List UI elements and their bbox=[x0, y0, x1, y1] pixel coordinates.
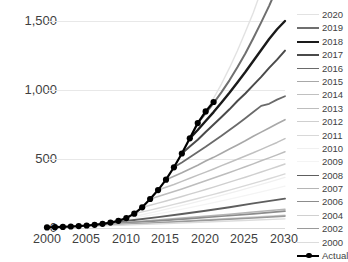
data-point-marker bbox=[155, 187, 161, 193]
series-line-2018 bbox=[190, 21, 285, 138]
x-tick-2000: 2000 bbox=[25, 232, 69, 246]
legend-label: 2018 bbox=[322, 35, 343, 48]
legend-swatch-icon bbox=[297, 94, 319, 95]
legend-item-2016[interactable]: 2016 bbox=[297, 62, 346, 75]
legend-label: 2015 bbox=[322, 75, 343, 88]
data-point-marker bbox=[107, 220, 113, 226]
legend-label: 2016 bbox=[322, 62, 343, 75]
legend-item-2015[interactable]: 2015 bbox=[297, 75, 346, 88]
legend-label: 2000 bbox=[322, 236, 343, 249]
legend-item-2017[interactable]: 2017 bbox=[297, 48, 346, 61]
legend-item-2006[interactable]: 2006 bbox=[297, 195, 346, 208]
legend-swatch-icon bbox=[297, 148, 319, 149]
data-point-marker bbox=[203, 108, 209, 114]
legend-item-2013[interactable]: 2013 bbox=[297, 102, 346, 115]
legend-swatch-icon bbox=[297, 201, 319, 202]
legend-swatch-icon bbox=[297, 27, 319, 29]
legend-label: 2013 bbox=[322, 102, 343, 115]
legend-swatch-icon bbox=[297, 81, 319, 82]
legend-label: 2014 bbox=[322, 88, 343, 101]
legend-item-2010[interactable]: 2010 bbox=[297, 142, 346, 155]
legend-item-2020[interactable]: 2020 bbox=[297, 8, 346, 21]
legend-item-2011[interactable]: 2011 bbox=[297, 129, 346, 142]
legend-item-2008[interactable]: 2008 bbox=[297, 169, 346, 182]
legend-label: 2004 bbox=[322, 209, 343, 222]
legend-item-2007[interactable]: 2007 bbox=[297, 182, 346, 195]
data-point-marker bbox=[163, 177, 169, 183]
legend-label: 2006 bbox=[322, 195, 343, 208]
data-point-marker bbox=[211, 99, 217, 105]
series-line-2013 bbox=[150, 152, 285, 199]
data-point-marker bbox=[68, 223, 74, 229]
legend-label: 2002 bbox=[322, 222, 343, 235]
legend-item-actual[interactable]: Actual bbox=[297, 249, 346, 262]
legend-swatch-icon bbox=[297, 161, 319, 162]
series-line-actual bbox=[47, 102, 214, 227]
legend-item-2018[interactable]: 2018 bbox=[297, 35, 346, 48]
legend-label: 2008 bbox=[322, 169, 343, 182]
data-point-marker bbox=[139, 204, 145, 210]
legend-swatch-icon bbox=[297, 14, 319, 15]
legend-label: 2009 bbox=[322, 155, 343, 168]
legend-item-2004[interactable]: 2004 bbox=[297, 209, 346, 222]
legend-swatch-icon bbox=[297, 68, 319, 69]
legend-swatch-icon bbox=[297, 108, 319, 109]
legend-swatch-icon bbox=[297, 41, 319, 43]
legend-label: 2019 bbox=[322, 21, 343, 34]
x-tick-2010: 2010 bbox=[104, 232, 148, 246]
chart-legend: 2020201920182017201620152014201320122011… bbox=[297, 8, 346, 262]
legend-item-2019[interactable]: 2019 bbox=[297, 21, 346, 34]
data-point-marker bbox=[76, 223, 82, 229]
data-point-marker bbox=[92, 222, 98, 228]
data-point-marker bbox=[84, 222, 90, 228]
legend-label: Actual bbox=[322, 249, 348, 262]
data-point-marker bbox=[123, 215, 129, 221]
data-point-marker bbox=[171, 164, 177, 170]
series-lines bbox=[47, 21, 285, 228]
data-point-marker bbox=[147, 196, 153, 202]
data-point-marker bbox=[60, 224, 66, 230]
legend-item-2014[interactable]: 2014 bbox=[297, 88, 346, 101]
axis-baseline bbox=[47, 228, 285, 229]
data-point-marker bbox=[44, 224, 50, 230]
legend-label: 2011 bbox=[322, 129, 342, 142]
data-point-marker bbox=[187, 135, 193, 141]
x-tick-2025: 2025 bbox=[222, 232, 266, 246]
series-line-2017 bbox=[182, 51, 285, 154]
series-line-2016 bbox=[174, 96, 285, 167]
x-tick-2005: 2005 bbox=[64, 232, 108, 246]
data-point-marker bbox=[179, 150, 185, 156]
legend-label: 2012 bbox=[322, 115, 343, 128]
plot-area bbox=[47, 21, 285, 228]
legend-label: 2017 bbox=[322, 48, 343, 61]
legend-label: 2020 bbox=[322, 8, 343, 21]
data-point-marker bbox=[115, 218, 121, 224]
data-point-marker bbox=[131, 211, 137, 217]
legend-swatch-icon bbox=[297, 135, 319, 136]
legend-swatch-icon bbox=[297, 121, 319, 122]
legend-item-2000[interactable]: 2000 bbox=[297, 236, 346, 249]
legend-marker-icon bbox=[306, 253, 312, 259]
x-tick-2020: 2020 bbox=[183, 232, 227, 246]
legend-item-2002[interactable]: 2002 bbox=[297, 222, 346, 235]
x-tick-2015: 2015 bbox=[143, 232, 187, 246]
legend-swatch-icon bbox=[297, 175, 319, 176]
data-point-marker bbox=[195, 120, 201, 126]
legend-swatch-icon bbox=[297, 54, 319, 56]
legend-item-2012[interactable]: 2012 bbox=[297, 115, 346, 128]
legend-item-2009[interactable]: 2009 bbox=[297, 155, 346, 168]
series-line-2012 bbox=[142, 164, 285, 207]
legend-swatch-icon bbox=[297, 215, 319, 216]
legend-label: 2010 bbox=[322, 142, 343, 155]
legend-swatch-icon bbox=[297, 188, 319, 189]
legend-swatch-icon bbox=[297, 242, 319, 243]
data-point-marker bbox=[99, 221, 105, 227]
chart-title bbox=[8, 0, 248, 5]
data-point-marker bbox=[52, 224, 58, 230]
legend-swatch-icon bbox=[297, 228, 319, 229]
legend-label: 2007 bbox=[322, 182, 343, 195]
